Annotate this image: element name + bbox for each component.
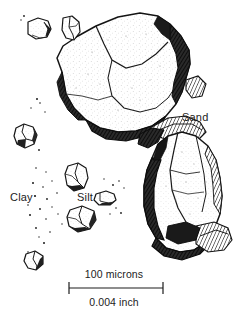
silt-grain: [94, 191, 116, 205]
silt-label: Silt: [77, 192, 93, 203]
sand-label: Sand: [182, 112, 209, 123]
silt-grain: [62, 16, 80, 40]
sand-grain-lower: [138, 128, 232, 260]
soil-particle-size-figure: Sand Silt Clay 100 microns 0.004 inch: [0, 0, 243, 317]
scale-bar-metric-label: 100 microns: [64, 268, 164, 280]
silt-grain: [28, 18, 51, 39]
scale-bar: 100 microns 0.004 inch: [66, 268, 166, 312]
silt-grain: [24, 251, 43, 270]
scale-bar-imperial-label: 0.004 inch: [64, 296, 164, 308]
silt-grain: [67, 206, 96, 232]
silt-grain: [14, 124, 37, 148]
clay-label: Clay: [10, 192, 33, 203]
silt-grain: [65, 163, 88, 191]
scale-bar-line: [66, 281, 166, 295]
